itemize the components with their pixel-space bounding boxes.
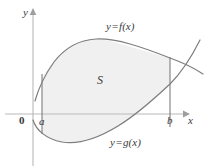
- region-label-S: S: [97, 74, 103, 86]
- x-tick-label-a: a: [39, 116, 45, 127]
- curve-g-label-equals: =: [115, 136, 123, 148]
- curve-f-label-equals: =: [111, 20, 119, 32]
- origin-label: 0: [19, 115, 25, 126]
- curve-g-label-fn: g(x): [123, 136, 141, 148]
- y-axis-arrowhead: [30, 8, 37, 15]
- y-axis-label: y: [23, 7, 28, 18]
- curve-g-label: y=g(x): [110, 137, 141, 148]
- figure-container: y x 0 a b S y=f(x) y=g(x): [0, 0, 204, 167]
- curve-f-label: y=f(x): [106, 21, 134, 32]
- x-axis-label: x: [188, 115, 193, 126]
- curve-f-label-fn: f(x): [119, 20, 134, 32]
- x-tick-label-b: b: [167, 115, 173, 126]
